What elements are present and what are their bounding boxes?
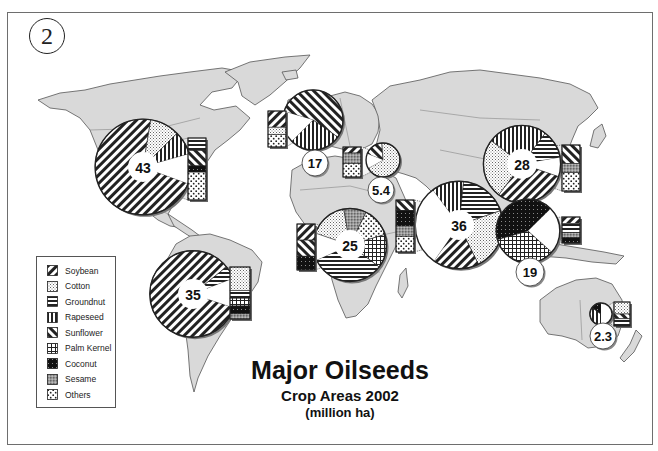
bar-segment-coconut	[396, 210, 414, 226]
bar-segment-cotton	[614, 302, 630, 314]
bar-segment-coconut	[188, 166, 206, 172]
land-new-zealand	[620, 330, 642, 362]
bar-segment-sunflower	[297, 240, 315, 256]
region-chart-oceania: 2.3	[590, 302, 632, 351]
bar-segment-cotton	[230, 267, 250, 290]
legend-item-sesame: Sesame	[37, 372, 115, 388]
pie-total-label: 19	[523, 265, 537, 280]
bar-segment-groundnut	[230, 290, 250, 298]
pie-total-label: 43	[135, 160, 151, 176]
legend-item-sunflower: Sunflower	[37, 325, 115, 341]
legend-swatch-groundnut	[47, 296, 58, 307]
legend-swatch-rapeseed	[47, 312, 58, 323]
bar-segment-groundnut	[562, 224, 580, 233]
legend-swatch-sesame	[47, 374, 58, 385]
legend-swatch-sunflower	[47, 327, 58, 338]
legend-item-groundnut: Groundnut	[37, 294, 115, 310]
bar-segment-sunflower	[614, 314, 630, 319]
bar-segment-others	[188, 172, 206, 200]
bar-segment-sunflower	[396, 200, 414, 210]
legend-label: Rapeseed	[65, 312, 104, 322]
bar-segment-sesame	[396, 226, 414, 236]
pie-total-label: 5.4	[372, 183, 391, 198]
legend-item-others: Others	[37, 387, 115, 403]
bar-segment-coconut	[230, 306, 250, 314]
bar-segment-sesame	[230, 314, 250, 319]
legend-label: Sesame	[65, 374, 96, 384]
legend-label: Soybean	[65, 266, 99, 276]
bar-segment-soybean	[343, 147, 361, 153]
legend: SoybeanCottonGroundnutRapeseedSunflowerP…	[36, 256, 116, 408]
chart-subtitle: Crop Areas 2002	[230, 386, 450, 405]
bar-segment-cotton	[268, 127, 286, 134]
chart-title-block: Major Oilseeds Crop Areas 2002 (million …	[230, 356, 450, 421]
legend-item-soybean: Soybean	[37, 263, 115, 279]
legend-label: Coconut	[65, 359, 97, 369]
bar-segment-sesame	[562, 233, 580, 238]
legend-label: Others	[65, 390, 91, 400]
bar-segment-sunflower	[562, 145, 580, 163]
legend-label: Groundnut	[65, 297, 105, 307]
legend-swatch-coconut	[47, 358, 58, 369]
bar-segment-coconut	[297, 256, 315, 270]
land-japan	[590, 124, 606, 148]
legend-label: Cotton	[65, 281, 90, 291]
bar-segment-others	[396, 236, 414, 252]
chart-title: Major Oilseeds	[230, 356, 450, 384]
legend-item-rapeseed: Rapeseed	[37, 310, 115, 326]
region-chart-southeast-asia: 19	[496, 199, 582, 287]
bar-segment-others	[562, 173, 580, 191]
legend-swatch-palmkernel	[47, 343, 58, 354]
pie-total-label: 25	[342, 238, 358, 254]
legend-swatch-others	[47, 389, 58, 400]
legend-label: Sunflower	[65, 328, 103, 338]
bar-segment-sesame	[343, 153, 361, 164]
bar-segment-sunflower	[188, 150, 206, 166]
bar-segment-coconut	[562, 238, 580, 243]
bar-segment-others	[268, 134, 286, 147]
pie-total-label: 35	[185, 287, 201, 303]
bar-segment-groundnut	[614, 319, 630, 326]
bar-segment-palmkernel	[230, 298, 250, 306]
legend-label: Palm Kernel	[65, 343, 111, 353]
land-madagascar	[398, 268, 408, 298]
legend-item-coconut: Coconut	[37, 356, 115, 372]
bar-segment-soybean	[268, 111, 286, 127]
pie-total-label: 2.3	[594, 329, 612, 344]
bar-segment-groundnut	[188, 138, 206, 150]
page-number-badge: 2	[29, 18, 65, 54]
legend-swatch-cotton	[47, 281, 58, 292]
legend-item-palmkernel: Palm Kernel	[37, 341, 115, 357]
bar-segment-others	[343, 164, 361, 178]
bar-segment-soybean	[562, 217, 580, 224]
pie-total-label: 36	[451, 218, 467, 234]
legend-swatch-soybean	[47, 265, 58, 276]
bar-segment-soybean	[297, 224, 315, 240]
pie-total-label: 28	[514, 157, 530, 173]
bar-segment-sesame	[562, 163, 580, 172]
chart-unit-label: (million ha)	[230, 405, 450, 421]
legend-item-cotton: Cotton	[37, 279, 115, 295]
region-chart-south-asia: 36	[396, 181, 505, 271]
pie-total-label: 17	[308, 156, 322, 171]
